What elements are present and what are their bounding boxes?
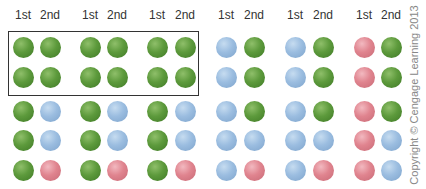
blue-ball xyxy=(381,160,402,181)
blue-ball xyxy=(381,130,402,151)
green-ball xyxy=(80,101,101,122)
blue-ball xyxy=(40,130,61,151)
green-ball xyxy=(80,130,101,151)
red-ball xyxy=(354,67,375,88)
red-ball xyxy=(175,160,196,181)
green-ball xyxy=(381,101,402,122)
blue-ball xyxy=(175,130,196,151)
column-label-1st: 1st xyxy=(280,8,310,22)
column-label-1st: 1st xyxy=(75,8,105,22)
green-ball xyxy=(13,101,34,122)
green-ball xyxy=(147,130,168,151)
column-label-2nd: 2nd xyxy=(239,8,269,22)
column-label-2nd: 2nd xyxy=(170,8,200,22)
blue-ball xyxy=(285,130,306,151)
red-ball xyxy=(40,160,61,181)
green-ball xyxy=(244,67,265,88)
green-ball xyxy=(313,67,334,88)
column-label-2nd: 2nd xyxy=(35,8,65,22)
blue-ball xyxy=(175,101,196,122)
green-ball xyxy=(13,130,34,151)
green-ball xyxy=(147,160,168,181)
column-label-2nd: 2nd xyxy=(376,8,406,22)
red-ball xyxy=(244,160,265,181)
green-ball xyxy=(244,37,265,58)
green-ball xyxy=(313,101,334,122)
green-ball xyxy=(381,67,402,88)
blue-ball xyxy=(107,130,128,151)
green-ball xyxy=(244,101,265,122)
highlight-box xyxy=(8,31,199,96)
red-ball xyxy=(354,101,375,122)
column-label-1st: 1st xyxy=(8,8,38,22)
column-label-1st: 1st xyxy=(142,8,172,22)
blue-ball xyxy=(244,130,265,151)
blue-ball xyxy=(285,160,306,181)
blue-ball xyxy=(107,101,128,122)
red-ball xyxy=(107,160,128,181)
green-ball xyxy=(147,101,168,122)
blue-ball xyxy=(216,67,237,88)
blue-ball xyxy=(216,37,237,58)
red-ball xyxy=(313,160,334,181)
green-ball xyxy=(80,160,101,181)
green-ball xyxy=(13,160,34,181)
blue-ball xyxy=(285,67,306,88)
red-ball xyxy=(354,37,375,58)
column-label-1st: 1st xyxy=(349,8,379,22)
column-label-1st: 1st xyxy=(211,8,241,22)
blue-ball xyxy=(285,101,306,122)
blue-ball xyxy=(216,101,237,122)
green-ball xyxy=(313,37,334,58)
blue-ball xyxy=(313,130,334,151)
blue-ball xyxy=(216,130,237,151)
copyright-text: Copyright © Cengage Learning 2013 xyxy=(408,5,420,184)
blue-ball xyxy=(40,101,61,122)
column-label-2nd: 2nd xyxy=(308,8,338,22)
red-ball xyxy=(354,130,375,151)
green-ball xyxy=(381,37,402,58)
red-ball xyxy=(354,160,375,181)
blue-ball xyxy=(285,37,306,58)
column-label-2nd: 2nd xyxy=(102,8,132,22)
blue-ball xyxy=(216,160,237,181)
